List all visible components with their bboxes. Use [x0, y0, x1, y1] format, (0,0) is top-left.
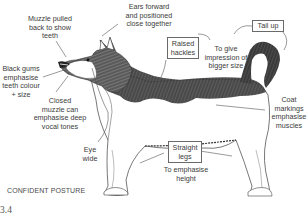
label-emphasise-height: To emphasise height [158, 166, 214, 183]
label-ears-forward: Ears forward and positioned close togeth… [120, 3, 178, 29]
label-closed-muzzle: Closed muzzle can emphasise deep vocal t… [30, 97, 90, 131]
box-tail-up: Tail up [252, 20, 284, 32]
figure-number: 3.4 [0, 205, 12, 215]
label-eye-wide: Eye wide [78, 146, 102, 163]
confident-posture-figure: Muzzle pulled back to show teeth Ears fo… [0, 0, 308, 221]
box-raised-hackles: Raised hackles [167, 37, 199, 59]
label-muzzle-pulled-back: Muzzle pulled back to show teeth [20, 15, 80, 41]
label-bigger-size: To give impression of bigger size [200, 45, 252, 71]
figure-caption: CONFIDENT POSTURE [7, 187, 85, 194]
box-straight-legs: Straight legs [168, 141, 202, 163]
label-black-gums: Black gums emphasise teeth colour + size [0, 65, 42, 99]
label-coat-markings: Coat markings emphasise muscles [270, 96, 308, 130]
